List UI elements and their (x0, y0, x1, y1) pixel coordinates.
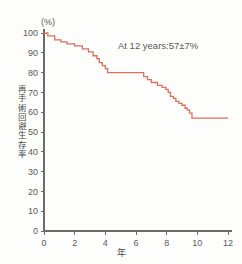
x-axis-title: 年 (0, 246, 242, 259)
survival-curve-figure: 0102030405060708090100024681012 (%) At 1… (0, 0, 242, 264)
y-tick-label: 70 (28, 88, 38, 98)
y-tick-label: 30 (28, 167, 38, 177)
y-tick-label: 20 (28, 187, 38, 197)
y-axis-unit-label: (%) (41, 17, 55, 27)
y-tick-label: 50 (28, 127, 38, 137)
y-tick-label: 90 (28, 48, 38, 58)
chart-axes (44, 29, 232, 231)
y-tick-label: 40 (28, 147, 38, 157)
chart-ticks (41, 33, 229, 235)
y-tick-label: 10 (28, 206, 38, 216)
y-tick-label: 80 (28, 68, 38, 78)
y-axis-title: 再手術回避生存率 (13, 85, 26, 159)
chart-tick-labels: 0102030405060708090100024681012 (23, 28, 233, 248)
y-tick-label: 100 (23, 28, 38, 38)
y-tick-label: 60 (28, 107, 38, 117)
chart-annotation-at-12-years: At 12 years:57±7% (118, 40, 198, 51)
y-tick-label: 0 (33, 226, 38, 236)
